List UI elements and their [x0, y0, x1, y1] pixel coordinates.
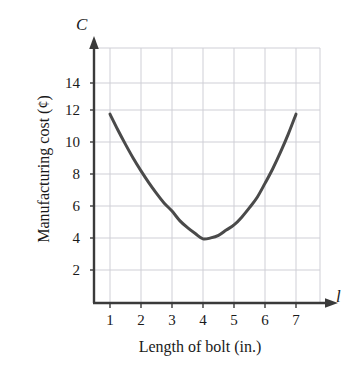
y-axis-symbol-label: C — [76, 16, 87, 33]
y-axis-title: Manufacturing cost (¢) — [35, 95, 52, 243]
y-tick-label: 14 — [56, 76, 80, 91]
x-axis-title: Length of bolt (in.) — [60, 338, 340, 356]
y-tick-label: 8 — [56, 167, 80, 182]
x-axis-symbol-label: l — [336, 288, 341, 305]
y-axis-title-wrapper: Manufacturing cost (¢) — [35, 59, 53, 279]
y-tick-label: 4 — [56, 231, 80, 246]
y-tick-label: 10 — [56, 135, 80, 150]
grid-lines — [94, 48, 320, 303]
y-tick-label: 12 — [56, 103, 80, 118]
y-axis-arrow-icon — [89, 36, 99, 49]
x-tick-label: 1 — [100, 313, 120, 328]
x-tick-label: 7 — [286, 313, 306, 328]
x-tick-label: 4 — [193, 313, 213, 328]
y-tick-label: 6 — [56, 199, 80, 214]
x-tick-label: 3 — [162, 313, 182, 328]
y-tick-label: 2 — [56, 263, 80, 278]
x-tick-label: 5 — [224, 313, 244, 328]
x-tick-label: 6 — [255, 313, 275, 328]
chart-figure: C l 14 12 10 8 6 4 2 1 2 3 4 5 6 7 Manuf… — [0, 0, 362, 375]
x-tick-label: 2 — [131, 313, 151, 328]
axes — [89, 36, 338, 308]
